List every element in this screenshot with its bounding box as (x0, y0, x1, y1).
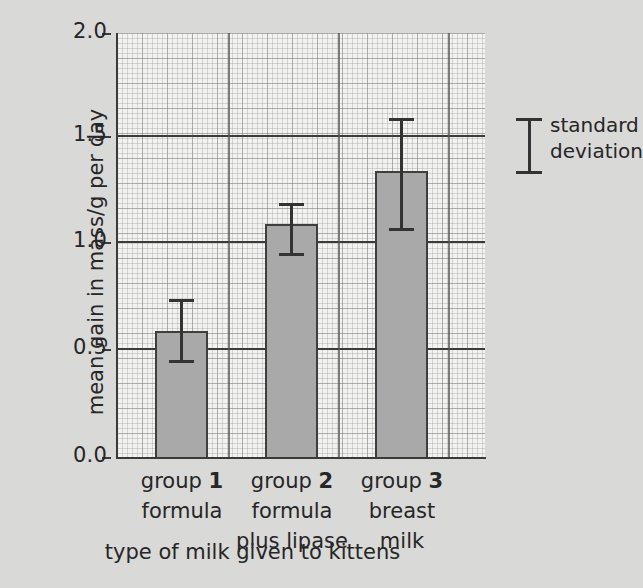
gridline-1-5 (117, 135, 485, 137)
x-axis-line (116, 457, 486, 459)
category-word: group (141, 469, 202, 493)
category-word: group (361, 469, 422, 493)
error-stem (400, 118, 403, 231)
y-axis-line (116, 33, 118, 459)
x-axis-title: type of milk given to kittens (0, 540, 505, 564)
y-axis-title: mean gain in mass/g per day (84, 62, 108, 462)
error-stem (180, 299, 183, 363)
gridline-vertical-3 (448, 33, 450, 458)
legend-text: standard deviation (550, 112, 643, 164)
y-axis-title-holder: mean gain in mass/g per day (46, 50, 47, 51)
error-cap-bottom (169, 360, 194, 363)
category-number: 2 (319, 469, 334, 493)
gridline-vertical-1 (228, 33, 230, 458)
gridline-vertical-2 (338, 33, 340, 458)
category-sub-line-1: breast (332, 496, 472, 526)
category-name: group 1 (141, 469, 223, 493)
error-bar-icon (516, 118, 542, 174)
category-word: group (251, 469, 312, 493)
category-name: group 2 (251, 469, 333, 493)
error-cap-bottom (516, 171, 542, 174)
y-tick-label: 2.0 (7, 19, 107, 43)
category-name: group 3 (361, 469, 443, 493)
error-bar-group-2 (279, 203, 304, 256)
error-stem (528, 118, 531, 174)
bar-group-2 (265, 224, 318, 459)
legend-line-1: standard (550, 112, 643, 138)
error-cap-bottom (279, 253, 304, 256)
error-bar-group-1 (169, 299, 194, 363)
error-cap-bottom (389, 228, 414, 231)
category-number: 3 (429, 469, 444, 493)
error-bar-group-3 (389, 118, 414, 231)
error-stem (290, 203, 293, 256)
legend-line-2: deviation (550, 138, 643, 164)
category-number: 1 (209, 469, 224, 493)
